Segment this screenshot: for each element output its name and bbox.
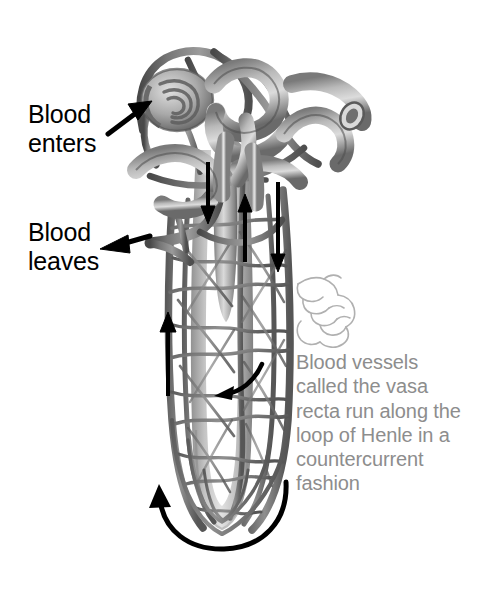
- label-blood-leaves-line1: Blood: [28, 218, 91, 246]
- caption-line-2: called the vasa: [296, 374, 486, 398]
- label-blood-enters-line2: enters: [28, 129, 96, 157]
- caption-line-5: countercurrent: [296, 447, 486, 471]
- caption-vasa-recta: Blood vessels called the vasa recta run …: [296, 350, 486, 496]
- caption-line-1: Blood vessels: [296, 350, 486, 374]
- pointing-hand-icon: [297, 275, 354, 347]
- caption-line-4: loop of Henle in a: [296, 423, 486, 447]
- glomerulus: [141, 69, 213, 131]
- label-blood-leaves-line2: leaves: [28, 247, 99, 275]
- nephron-illustration: [0, 0, 490, 591]
- caption-line-3: recta run along the: [296, 399, 486, 423]
- label-blood-enters-line1: Blood: [28, 100, 91, 128]
- blood-leaves-arrow: [100, 235, 150, 253]
- renal-corpuscle-cluster: [136, 51, 368, 210]
- label-blood-leaves: Blood leaves: [28, 218, 99, 276]
- nephron-vasa-recta-figure: Blood enters Blood leaves Blood vessels …: [0, 0, 490, 591]
- label-blood-enters: Blood enters: [28, 100, 96, 158]
- caption-line-6: fashion: [296, 471, 486, 495]
